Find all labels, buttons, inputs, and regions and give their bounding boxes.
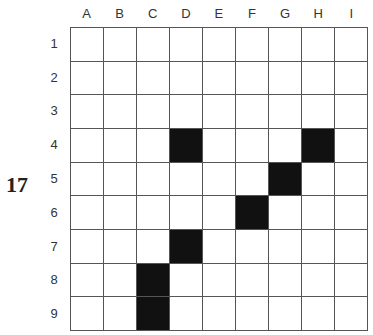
grid-cell-e7[interactable] (202, 229, 235, 263)
grid-cell-g4[interactable] (268, 128, 301, 162)
grid-cell-d6[interactable] (169, 195, 202, 229)
grid-cell-d1[interactable] (169, 27, 202, 61)
grid-cell-i3[interactable] (334, 94, 367, 128)
grid-cell-d9[interactable] (169, 296, 202, 330)
column-label: H (302, 6, 335, 21)
grid-cell-i9[interactable] (334, 296, 367, 330)
grid-cell-a5[interactable] (70, 162, 103, 196)
grid-cell-e6[interactable] (202, 195, 235, 229)
grid-cell-h3[interactable] (301, 94, 334, 128)
grid-cell-i2[interactable] (334, 61, 367, 95)
row-label: 6 (44, 205, 64, 220)
puzzle-grid (70, 27, 368, 331)
grid-cell-g2[interactable] (268, 61, 301, 95)
grid-cell-a2[interactable] (70, 61, 103, 95)
grid-cell-h5[interactable] (301, 162, 334, 196)
grid-cell-b1[interactable] (103, 27, 136, 61)
grid-cell-h6[interactable] (301, 195, 334, 229)
grid-cell-f1[interactable] (235, 27, 268, 61)
grid-cell-i5[interactable] (334, 162, 367, 196)
column-label: D (169, 6, 202, 21)
column-label: A (70, 6, 103, 21)
grid-cell-b6[interactable] (103, 195, 136, 229)
grid-cell-e5[interactable] (202, 162, 235, 196)
grid-cell-g8[interactable] (268, 263, 301, 297)
grid-cell-a4[interactable] (70, 128, 103, 162)
grid-cell-b5[interactable] (103, 162, 136, 196)
grid-cell-a6[interactable] (70, 195, 103, 229)
grid-cell-b4[interactable] (103, 128, 136, 162)
grid-cell-d2[interactable] (169, 61, 202, 95)
grid-cell-d8[interactable] (169, 263, 202, 297)
grid-cell-h9[interactable] (301, 296, 334, 330)
grid-cell-b2[interactable] (103, 61, 136, 95)
grid-cell-b7[interactable] (103, 229, 136, 263)
grid-cell-g5[interactable] (268, 162, 301, 196)
column-label: E (202, 6, 235, 21)
grid-cell-e4[interactable] (202, 128, 235, 162)
grid-cell-f4[interactable] (235, 128, 268, 162)
grid-cell-i1[interactable] (334, 27, 367, 61)
grid-cell-e8[interactable] (202, 263, 235, 297)
grid-cell-b3[interactable] (103, 94, 136, 128)
grid-cell-d3[interactable] (169, 94, 202, 128)
grid-cell-h2[interactable] (301, 61, 334, 95)
row-label: 9 (44, 306, 64, 321)
grid-cell-c5[interactable] (136, 162, 169, 196)
grid-cell-f2[interactable] (235, 61, 268, 95)
row-label: 1 (44, 36, 64, 51)
grid-cell-g9[interactable] (268, 296, 301, 330)
grid-cell-a3[interactable] (70, 94, 103, 128)
grid-cell-d5[interactable] (169, 162, 202, 196)
grid-cell-g7[interactable] (268, 229, 301, 263)
grid-cell-i4[interactable] (334, 128, 367, 162)
row-label: 7 (44, 239, 64, 254)
grid-cell-c6[interactable] (136, 195, 169, 229)
grid-cell-c7[interactable] (136, 229, 169, 263)
grid-cell-a9[interactable] (70, 296, 103, 330)
grid-cell-e9[interactable] (202, 296, 235, 330)
grid-cell-f6[interactable] (235, 195, 268, 229)
row-label: 4 (44, 137, 64, 152)
row-label: 5 (44, 171, 64, 186)
grid-cell-e2[interactable] (202, 61, 235, 95)
grid-cell-a1[interactable] (70, 27, 103, 61)
grid-cell-c1[interactable] (136, 27, 169, 61)
grid-cell-d4[interactable] (169, 128, 202, 162)
row-label: 8 (44, 272, 64, 287)
grid-cell-f3[interactable] (235, 94, 268, 128)
grid-cell-g6[interactable] (268, 195, 301, 229)
grid-cell-c9[interactable] (136, 296, 169, 330)
row-label: 3 (44, 103, 64, 118)
grid-cell-f7[interactable] (235, 229, 268, 263)
column-label: B (103, 6, 136, 21)
grid-cell-h7[interactable] (301, 229, 334, 263)
grid-cell-e1[interactable] (202, 27, 235, 61)
grid-cell-i7[interactable] (334, 229, 367, 263)
grid-cell-c4[interactable] (136, 128, 169, 162)
grid-cell-d7[interactable] (169, 229, 202, 263)
grid-cell-a7[interactable] (70, 229, 103, 263)
grid-cell-g3[interactable] (268, 94, 301, 128)
grid-cell-b9[interactable] (103, 296, 136, 330)
grid-cell-i8[interactable] (334, 263, 367, 297)
row-label: 2 (44, 70, 64, 85)
grid-cell-f8[interactable] (235, 263, 268, 297)
grid-cell-h4[interactable] (301, 128, 334, 162)
puzzle-number: 17 (6, 172, 28, 198)
column-label: G (269, 6, 302, 21)
grid-cell-c8[interactable] (136, 263, 169, 297)
grid-cell-h1[interactable] (301, 27, 334, 61)
grid-cell-a8[interactable] (70, 263, 103, 297)
column-label: C (136, 6, 169, 21)
column-label: F (236, 6, 269, 21)
grid-cell-h8[interactable] (301, 263, 334, 297)
grid-cell-g1[interactable] (268, 27, 301, 61)
grid-cell-c3[interactable] (136, 94, 169, 128)
grid-cell-b8[interactable] (103, 263, 136, 297)
grid-cell-c2[interactable] (136, 61, 169, 95)
grid-cell-f9[interactable] (235, 296, 268, 330)
grid-cell-e3[interactable] (202, 94, 235, 128)
grid-cell-i6[interactable] (334, 195, 367, 229)
grid-cell-f5[interactable] (235, 162, 268, 196)
